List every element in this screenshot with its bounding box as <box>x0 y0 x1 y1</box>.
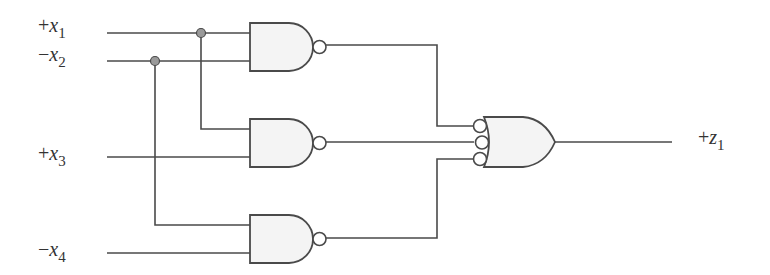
nand-gate-2 <box>250 119 326 167</box>
label-sign: + <box>38 142 49 164</box>
label-x1: +x1 <box>38 15 66 41</box>
inverter-bubble <box>474 120 487 133</box>
label-sign: + <box>698 126 709 148</box>
label-var: x <box>49 14 58 36</box>
label-sub: 3 <box>58 153 66 169</box>
label-var: x <box>49 142 58 164</box>
junction-dot <box>197 29 206 38</box>
inverter-bubble <box>313 137 326 150</box>
label-sub: 1 <box>58 25 66 41</box>
or-gate <box>474 117 556 167</box>
wire-nand1-out <box>326 45 474 126</box>
inverter-bubble <box>474 153 487 166</box>
label-z1: +z1 <box>698 127 725 153</box>
logic-circuit <box>0 0 770 275</box>
label-sub: 1 <box>717 137 725 153</box>
label-var: x <box>49 43 58 65</box>
wire-x1-branch <box>201 33 250 129</box>
nand-gate-3 <box>250 215 326 263</box>
label-x3: +x3 <box>38 143 66 169</box>
label-sign: − <box>38 238 49 260</box>
inverter-bubble <box>313 233 326 246</box>
label-x2: −x2 <box>38 44 66 70</box>
label-x4: −x4 <box>38 239 66 265</box>
wire-x2-branch <box>155 61 250 225</box>
nand-gate-1 <box>250 23 326 71</box>
label-sign: − <box>38 43 49 65</box>
inverter-bubble <box>313 41 326 54</box>
label-var: z <box>709 126 717 148</box>
wire-nand3-out <box>326 159 474 238</box>
junction-dot <box>151 57 160 66</box>
label-var: x <box>49 238 58 260</box>
label-sign: + <box>38 14 49 36</box>
inverter-bubble <box>476 136 489 149</box>
label-sub: 2 <box>58 54 66 70</box>
label-sub: 4 <box>58 249 66 265</box>
